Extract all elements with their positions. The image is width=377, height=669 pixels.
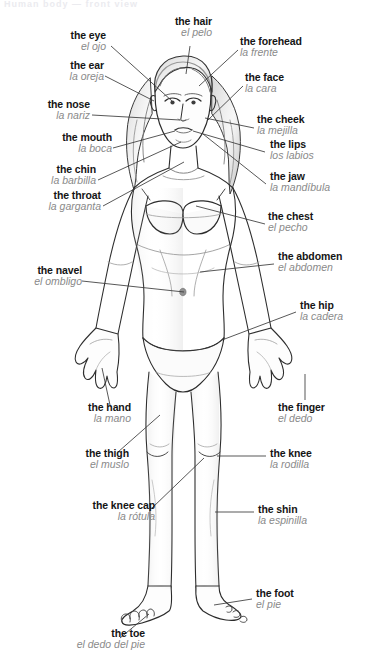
label-forehead-es: la frente <box>240 47 302 58</box>
leader-hair <box>186 46 190 74</box>
label-lips-es: los labios <box>270 150 314 161</box>
label-face-es: la cara <box>245 83 284 94</box>
leader-eye <box>111 46 172 101</box>
label-abdomen: the abdomen el abdomen <box>278 251 342 274</box>
leader-forehead <box>199 50 238 86</box>
label-throat: the throat la garganta <box>48 190 101 213</box>
label-abdomen-es: el abdomen <box>278 262 342 273</box>
label-lips: the lips los labios <box>270 139 314 162</box>
leader-cheek <box>205 118 254 128</box>
leader-abdomen <box>200 264 274 272</box>
label-ear-es: la oreja <box>70 71 104 82</box>
label-mouth: the mouth la boca <box>62 132 112 155</box>
label-nose: the nose la nariz <box>48 99 90 122</box>
leader-mouth <box>113 131 175 148</box>
label-thigh-es: el muslo <box>86 459 129 470</box>
label-eye-es: el ojo <box>71 41 107 52</box>
label-hip-es: la cadera <box>300 311 343 322</box>
label-toe-es: el dedo del pie <box>77 639 145 650</box>
label-shin: the shin la espinilla <box>258 504 307 527</box>
leader-nose <box>92 115 180 120</box>
leader-face <box>208 86 243 120</box>
label-chin: the chin la barbilla <box>51 164 96 187</box>
label-finger-es: el dedo <box>278 413 325 424</box>
label-cheek: the cheek la mejilla <box>257 114 305 137</box>
label-jaw: the jaw la mandíbula <box>270 171 330 194</box>
label-chin-es: la barbilla <box>51 175 96 186</box>
label-chest: the chest el pecho <box>268 211 313 234</box>
label-cheek-es: la mejilla <box>257 125 305 136</box>
label-hip: the hip la cadera <box>300 300 343 323</box>
diagram-canvas: Human body — front view <box>0 0 377 669</box>
label-hand-es: la mano <box>88 413 131 424</box>
label-foot: the foot el pie <box>256 588 294 611</box>
label-kneecap-es: la rótula <box>93 511 155 522</box>
label-ear: the ear la oreja <box>70 60 104 83</box>
leader-jaw <box>203 134 266 184</box>
label-shin-es: la espinilla <box>258 515 307 526</box>
label-navel-es: el ombligo <box>34 276 82 287</box>
label-navel: the navel el ombligo <box>34 265 82 288</box>
label-nose-es: la nariz <box>48 110 90 121</box>
leader-hip <box>222 312 296 340</box>
label-hand: the hand la mano <box>88 402 131 425</box>
label-face: the face la cara <box>245 72 284 95</box>
label-kneecap: the knee cap la rótula <box>93 500 155 523</box>
label-thigh: the thigh el muslo <box>86 448 129 471</box>
label-hair-es: el pelo <box>175 27 212 38</box>
label-mouth-es: la boca <box>62 143 112 154</box>
leader-navel <box>82 281 184 292</box>
label-throat-es: la garganta <box>48 201 101 212</box>
leader-throat <box>103 162 184 206</box>
leader-kneecap <box>152 458 204 508</box>
label-forehead: the forehead la frente <box>240 36 302 59</box>
leader-chest <box>196 206 265 224</box>
label-knee: the knee la rodilla <box>270 448 312 471</box>
label-finger: the finger el dedo <box>278 402 325 425</box>
leader-foot <box>214 599 252 605</box>
label-hair: the hair el pelo <box>175 16 212 39</box>
label-foot-es: el pie <box>256 599 294 610</box>
label-eye: the eye el ojo <box>71 30 107 53</box>
label-jaw-es: la mandíbula <box>270 182 330 193</box>
leader-hand <box>102 368 110 405</box>
label-knee-es: la rodilla <box>270 459 312 470</box>
label-chest-es: el pecho <box>268 222 313 233</box>
leader-ear <box>105 76 154 101</box>
label-toe: the toe el dedo del pie <box>77 628 145 651</box>
